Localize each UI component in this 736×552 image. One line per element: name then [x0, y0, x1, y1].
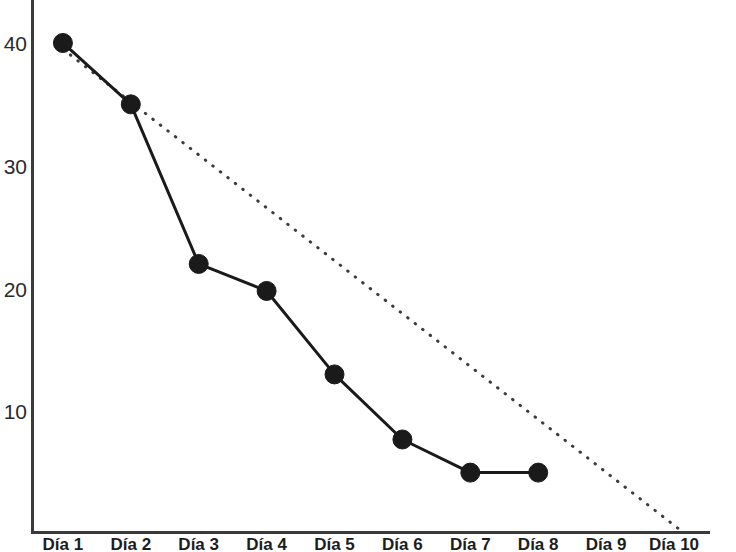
x-axis-tick-labels: Día 1Día 2Día 3Día 4Día 5Día 6Día 7Día 8…	[0, 537, 736, 552]
y-axis-tick-label: 10	[0, 401, 27, 422]
chart-container: 10203040 Día 1Día 2Día 3Día 4Día 5Día 6D…	[0, 0, 736, 552]
y-axis-tick-label: 30	[0, 155, 27, 176]
x-axis-tick-label: Día 5	[314, 537, 355, 552]
x-axis-tick-label: Día 6	[382, 537, 423, 552]
x-axis-tick-label: Día 1	[43, 537, 84, 552]
y-axis-tick-labels: 10203040	[0, 0, 27, 552]
plot-axes-frame	[31, 0, 710, 534]
x-axis-tick-label: Día 7	[450, 537, 491, 552]
x-axis-tick-label: Día 8	[518, 537, 559, 552]
x-axis-tick-label: Día 2	[110, 537, 151, 552]
x-axis-tick-label: Día 3	[178, 537, 219, 552]
x-axis-tick-label: Día 9	[586, 537, 627, 552]
y-axis-tick-label: 20	[0, 278, 27, 299]
x-axis-tick-label: Día 10	[649, 537, 699, 552]
y-axis-tick-label: 40	[0, 33, 27, 54]
x-axis-tick-label: Día 4	[246, 537, 287, 552]
